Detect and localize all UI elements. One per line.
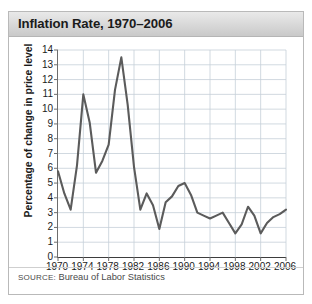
y-tick-label: 12 bbox=[42, 75, 53, 85]
y-tick-label: 3 bbox=[47, 208, 53, 218]
y-tick-label: 7 bbox=[47, 149, 53, 159]
y-tick-label: 10 bbox=[42, 104, 53, 114]
y-axis-tickmarks bbox=[54, 50, 58, 257]
plot-area-wrapper: Percentage of change in price level 1413… bbox=[9, 37, 303, 267]
figure-container: Inflation Rate, 1970–2006 Percentage of … bbox=[8, 11, 304, 295]
y-tick-label: 4 bbox=[47, 193, 53, 203]
y-tick-label: 1 bbox=[47, 237, 53, 247]
source-note: SOURCE: Bureau of Labor Statistics bbox=[18, 272, 165, 282]
y-tick-label: 9 bbox=[47, 119, 53, 129]
y-axis-tick-labels: 14131211109876543210 bbox=[31, 50, 53, 257]
source-divider bbox=[9, 267, 303, 268]
page-title: Inflation Rate, 1970–2006 bbox=[18, 16, 172, 31]
inflation-rate-line bbox=[58, 57, 286, 233]
chart-title-bar: Inflation Rate, 1970–2006 bbox=[9, 12, 303, 37]
y-tick-label: 5 bbox=[47, 178, 53, 188]
plot-area bbox=[57, 50, 286, 258]
y-tick-label: 13 bbox=[42, 60, 53, 70]
y-tick-label: 2 bbox=[47, 222, 53, 232]
y-tick-label: 6 bbox=[47, 163, 53, 173]
source-text: Bureau of Labor Statistics bbox=[56, 272, 165, 282]
y-tick-label: 8 bbox=[47, 134, 53, 144]
chart-svg bbox=[58, 50, 286, 257]
y-tick-label: 14 bbox=[42, 45, 53, 55]
source-label: SOURCE: bbox=[18, 273, 56, 282]
y-tick-label: 11 bbox=[43, 89, 53, 99]
